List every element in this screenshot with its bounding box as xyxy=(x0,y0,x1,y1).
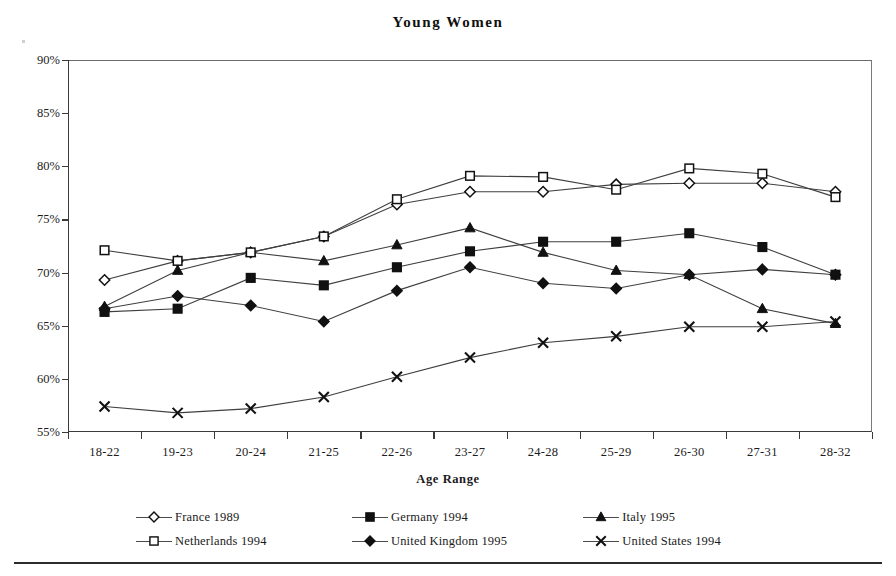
legend-row: France 1989Germany 1994Italy 1995 xyxy=(136,505,776,529)
open-square-marker xyxy=(393,195,402,204)
filled-diamond-marker xyxy=(538,278,548,288)
open-square-icon xyxy=(145,533,163,549)
open-square-marker xyxy=(539,173,548,182)
filled-square-marker xyxy=(612,237,621,246)
open-diamond-marker xyxy=(149,512,159,522)
x-tick-mark xyxy=(287,432,288,439)
filled-square-marker xyxy=(366,513,374,521)
page-bottom-rule xyxy=(14,562,882,564)
x-tick-mark xyxy=(507,432,508,439)
y-tick-label: 90% xyxy=(4,53,60,68)
open-diamond-marker xyxy=(99,275,109,285)
filled-square-marker xyxy=(758,243,767,252)
page-speck xyxy=(22,40,25,43)
filled-square-marker xyxy=(320,281,329,290)
x-cross-marker xyxy=(392,372,402,382)
open-diamond-marker xyxy=(757,178,767,188)
x-tick-label: 19-23 xyxy=(138,445,218,460)
filled-triangle-marker xyxy=(465,223,475,232)
open-square-marker xyxy=(173,257,182,266)
filled-diamond-marker xyxy=(757,264,767,274)
filled-diamond-marker xyxy=(246,300,256,310)
x-tick-mark xyxy=(68,432,69,439)
legend-marker-sample xyxy=(583,510,619,524)
y-tick-label: 80% xyxy=(4,159,60,174)
series-line xyxy=(105,321,836,412)
x-cross-icon xyxy=(592,533,610,549)
open-diamond-marker xyxy=(465,187,475,197)
chart-title: Young Women xyxy=(0,14,896,31)
filled-diamond-marker xyxy=(172,291,182,301)
open-square-marker xyxy=(320,232,329,241)
series-group xyxy=(100,316,841,417)
filled-diamond-marker xyxy=(611,283,621,293)
filled-square-marker xyxy=(466,247,475,256)
x-tick-mark xyxy=(433,432,434,439)
open-square-marker xyxy=(685,164,694,173)
legend-marker-sample xyxy=(583,534,619,548)
y-tick-label: 85% xyxy=(4,106,60,121)
open-square-marker xyxy=(150,537,158,545)
legend-marker-sample xyxy=(136,534,172,548)
x-cross-marker xyxy=(465,353,475,363)
x-tick-mark xyxy=(872,432,873,439)
filled-square-marker xyxy=(173,304,182,313)
legend-marker-sample xyxy=(352,510,388,524)
filled-diamond-marker xyxy=(392,285,402,295)
y-tick-label: 60% xyxy=(4,371,60,386)
x-tick-mark xyxy=(141,432,142,439)
x-tick-mark xyxy=(653,432,654,439)
legend-item[interactable]: France 1989 xyxy=(136,510,352,525)
legend-item[interactable]: Italy 1995 xyxy=(583,510,776,525)
chart-figure: Young Women 55%60%65%70%75%80%85%90% 18-… xyxy=(0,0,896,576)
legend-item[interactable]: Germany 1994 xyxy=(352,510,583,525)
legend-marker-sample xyxy=(352,534,388,548)
x-tick-mark xyxy=(580,432,581,439)
x-tick-label: 27-31 xyxy=(722,445,802,460)
series-group xyxy=(99,223,840,328)
legend-label: Netherlands 1994 xyxy=(172,534,267,549)
x-tick-label: 25-29 xyxy=(576,445,656,460)
legend-item[interactable]: Netherlands 1994 xyxy=(136,534,352,549)
legend-label: Italy 1995 xyxy=(619,510,675,525)
open-square-marker xyxy=(100,246,109,255)
x-tick-label: 18-22 xyxy=(65,445,145,460)
x-tick-label: 20-24 xyxy=(211,445,291,460)
x-tick-mark xyxy=(360,432,361,439)
open-diamond-marker xyxy=(538,187,548,197)
filled-square-marker xyxy=(685,229,694,238)
x-axis-title: Age Range xyxy=(0,472,896,487)
x-tick-mark xyxy=(726,432,727,439)
filled-square-marker xyxy=(539,237,548,246)
open-square-marker xyxy=(612,185,621,194)
open-diamond-icon xyxy=(145,509,163,525)
y-tick-label: 65% xyxy=(4,318,60,333)
series-line xyxy=(105,267,836,321)
x-tick-label: 21-25 xyxy=(284,445,364,460)
y-tick-label: 70% xyxy=(4,265,60,280)
legend-row: Netherlands 1994United Kingdom 1995Unite… xyxy=(136,529,776,553)
open-square-marker xyxy=(466,172,475,181)
filled-triangle-icon xyxy=(592,509,610,525)
filled-diamond-marker xyxy=(465,262,475,272)
y-tick-label: 55% xyxy=(4,425,60,440)
legend-label: France 1989 xyxy=(172,510,239,525)
x-tick-label: 26-30 xyxy=(649,445,729,460)
y-tick-label: 75% xyxy=(4,212,60,227)
filled-diamond-marker xyxy=(319,316,329,326)
plot-series-layer xyxy=(68,60,872,432)
filled-triangle-marker xyxy=(757,303,767,312)
filled-triangle-marker xyxy=(596,512,606,521)
legend-label: United States 1994 xyxy=(619,534,721,549)
legend-label: Germany 1994 xyxy=(388,510,468,525)
open-diamond-marker xyxy=(684,178,694,188)
legend-item[interactable]: United Kingdom 1995 xyxy=(352,534,583,549)
x-cross-marker xyxy=(596,536,606,546)
filled-square-icon xyxy=(361,509,379,525)
open-square-marker xyxy=(758,169,767,178)
legend-item[interactable]: United States 1994 xyxy=(583,534,776,549)
x-tick-label: 24-28 xyxy=(503,445,583,460)
open-square-marker xyxy=(246,248,255,257)
x-tick-label: 22-26 xyxy=(357,445,437,460)
filled-square-marker xyxy=(246,274,255,283)
